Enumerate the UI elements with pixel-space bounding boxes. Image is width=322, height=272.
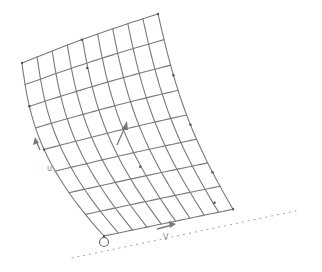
- mesh-row-line: [69, 163, 208, 193]
- mesh-node: [189, 124, 191, 126]
- axis-label-v: V: [163, 233, 169, 242]
- mesh-row-line: [25, 40, 164, 85]
- left-arrow-head-icon: [33, 137, 39, 145]
- mesh-diagram: V u: [0, 0, 322, 272]
- mesh-node: [103, 235, 105, 237]
- mesh-node: [211, 171, 213, 173]
- mesh-node: [172, 74, 174, 76]
- mesh-node: [28, 105, 30, 107]
- mesh-node: [21, 62, 23, 64]
- mesh-row-line: [22, 14, 158, 63]
- left-arrow: [33, 137, 40, 150]
- mesh-node: [43, 148, 45, 150]
- axis-label-left-lower: u: [47, 164, 52, 173]
- mesh-column-line: [158, 14, 233, 209]
- mesh-node: [213, 202, 215, 204]
- mesh-row-line: [36, 90, 179, 128]
- normal-arrow: [117, 121, 128, 145]
- mesh-row-line: [85, 186, 220, 214]
- mesh-node: [157, 13, 159, 15]
- mesh-node: [232, 208, 234, 210]
- mesh-nodes: [21, 13, 234, 237]
- ground-line: [72, 210, 300, 258]
- origin-marker: [100, 238, 109, 247]
- mesh-row-line: [104, 209, 233, 236]
- mesh-column-line: [143, 19, 219, 212]
- mesh-node: [139, 166, 141, 168]
- mesh-row-line: [44, 115, 187, 150]
- mesh-column-line: [82, 39, 161, 224]
- mesh-grid: [22, 14, 233, 236]
- mesh-column-line: [67, 45, 147, 227]
- mesh-column-line: [22, 63, 104, 236]
- mesh-node: [86, 67, 88, 69]
- mesh-node: [81, 39, 83, 41]
- mesh-row-line: [29, 65, 170, 106]
